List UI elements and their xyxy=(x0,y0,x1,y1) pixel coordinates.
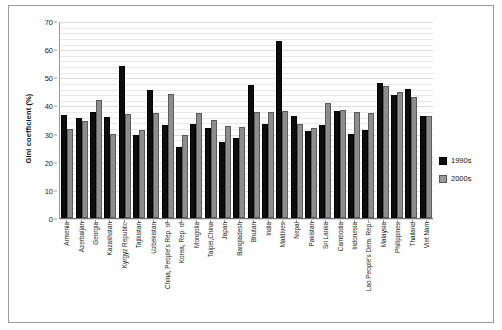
bar-group xyxy=(404,22,418,218)
bar-2000s xyxy=(340,110,346,218)
y-tick-label: 40 xyxy=(13,102,53,111)
bar-group xyxy=(189,22,203,218)
bar-2000s xyxy=(282,111,288,218)
legend-label-2000s: 2000s xyxy=(451,174,471,183)
bar-2000s xyxy=(225,126,231,218)
y-tick-label: 70 xyxy=(13,18,53,27)
x-axis-label-text: Kazakhstan xyxy=(106,222,113,255)
bar-group xyxy=(275,22,289,218)
x-axis-label: Bhutan xyxy=(246,220,260,312)
bar-group xyxy=(203,22,217,218)
bar-group xyxy=(160,22,174,218)
bar-2000s xyxy=(397,92,403,218)
y-tick-label: 50 xyxy=(13,74,53,83)
bar-2000s xyxy=(268,112,274,218)
x-axis-label: Bangladesh xyxy=(232,220,246,312)
bar-2000s xyxy=(354,112,360,218)
x-axis-label: Kazakhstan xyxy=(102,220,116,312)
x-axis-label: India xyxy=(260,220,274,312)
bar-group xyxy=(361,22,375,218)
x-axis-label: Armenia xyxy=(59,220,73,312)
x-axis-label-text: Georgia xyxy=(91,222,98,245)
chart-frame: Gini coefficient (%) 010203040506070 Arm… xyxy=(8,5,494,323)
bar-group xyxy=(117,22,131,218)
y-tick-mark xyxy=(54,162,57,163)
bar-2000s xyxy=(82,121,88,218)
x-axis-label: Thailand xyxy=(404,220,418,312)
bar-group xyxy=(347,22,361,218)
y-tick-mark xyxy=(54,106,57,107)
x-axis-label-text: Sri Lanka xyxy=(322,222,329,249)
x-axis-label-text: Armenia xyxy=(63,222,70,246)
bar-group xyxy=(419,22,433,218)
x-axis-label: Nepal xyxy=(289,220,303,312)
x-axis-label: Malaysia xyxy=(376,220,390,312)
x-axis-labels: ArmeniaAzerbaijanGeorgiaKazakhstanKyrgyz… xyxy=(59,220,433,312)
x-axis-label: Cambodia xyxy=(332,220,346,312)
y-tick-mark xyxy=(54,78,57,79)
x-axis-label-text: China, People's Rep. of xyxy=(163,222,170,289)
chart-figure: Gini coefficient (%) 010203040506070 Arm… xyxy=(0,0,502,330)
bar-2000s xyxy=(168,94,174,218)
x-axis-label: Uzbekistan xyxy=(145,220,159,312)
x-axis-label-text: Maldives xyxy=(279,222,286,247)
x-axis-label: Pakistan xyxy=(304,220,318,312)
x-axis-label: Japan xyxy=(217,220,231,312)
bar-2000s xyxy=(125,114,131,218)
y-tick-label: 60 xyxy=(13,46,53,55)
bar-2000s xyxy=(254,112,260,218)
legend-item-2000s: 2000s xyxy=(439,174,497,183)
bar-group xyxy=(60,22,74,218)
x-axis-label-text: Malaysia xyxy=(379,222,386,247)
y-tick-label: 20 xyxy=(13,158,53,167)
x-axis-label-text: Nepal xyxy=(293,222,300,239)
bar-2000s xyxy=(368,113,374,218)
x-axis-label-text: Tajikistan xyxy=(135,222,142,248)
bar-group xyxy=(103,22,117,218)
bar-2000s xyxy=(411,97,417,218)
bar-2000s xyxy=(211,120,217,218)
x-axis-label: Korea, Rep. of xyxy=(174,220,188,312)
bar-2000s xyxy=(297,124,303,218)
bar-2000s xyxy=(311,128,317,218)
bar-group xyxy=(376,22,390,218)
x-axis-label-text: Taipei,China xyxy=(207,222,214,257)
x-axis-label-text: Bhutan xyxy=(250,222,257,242)
x-axis-label: Mongolia xyxy=(189,220,203,312)
bar-group xyxy=(318,22,332,218)
bar-group xyxy=(246,22,260,218)
y-tick-mark xyxy=(54,22,57,23)
x-axis-label-text: Korea, Rep. of xyxy=(178,222,185,263)
bar-2000s xyxy=(196,113,202,218)
x-axis-label-text: Kyrgyz Republic xyxy=(120,222,127,268)
y-tick-label: 10 xyxy=(13,186,53,195)
legend-label-1990s: 1990s xyxy=(451,156,471,165)
x-axis-label-text: Mongolia xyxy=(192,222,199,248)
x-axis-label: Indonesia xyxy=(347,220,361,312)
bar-2000s xyxy=(239,127,245,218)
y-tick-mark xyxy=(54,190,57,191)
bar-group xyxy=(290,22,304,218)
x-axis-label: Viet Nam xyxy=(419,220,433,312)
x-axis-label: Maldives xyxy=(275,220,289,312)
x-axis-label: Georgia xyxy=(88,220,102,312)
y-axis-ticks: 010203040506070 xyxy=(9,22,57,220)
x-axis-label: Azerbaijan xyxy=(73,220,87,312)
legend-swatch-2000s xyxy=(439,175,447,183)
legend-swatch-1990s xyxy=(439,157,447,165)
x-axis-label-text: Uzbekistan xyxy=(149,222,156,254)
x-axis-label-text: Viet Nam xyxy=(422,222,429,248)
bar-group xyxy=(333,22,347,218)
x-axis-label-text: Cambodia xyxy=(336,222,343,251)
bar-2000s xyxy=(96,100,102,218)
bar-group xyxy=(304,22,318,218)
y-tick-mark xyxy=(54,134,57,135)
x-axis-label: Kyrgyz Republic xyxy=(117,220,131,312)
bar-2000s xyxy=(426,116,432,218)
bar-group xyxy=(146,22,160,218)
x-axis-label: Sri Lanka xyxy=(318,220,332,312)
bar-2000s xyxy=(67,129,73,218)
x-axis-label-text: Philippines xyxy=(394,222,401,253)
bar-group xyxy=(74,22,88,218)
bar-group xyxy=(261,22,275,218)
